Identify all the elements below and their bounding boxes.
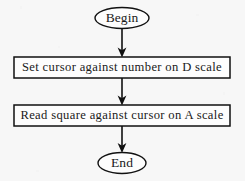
node-begin[interactable]: Begin: [95, 8, 149, 29]
node-read-square[interactable]: Read square against cursor on A scale: [14, 105, 230, 126]
end-label: End: [111, 155, 133, 170]
flowchart-svg: Begin Set cursor against number on D sca…: [0, 0, 245, 181]
set-cursor-label: Set cursor against number on D scale: [22, 60, 222, 74]
node-end[interactable]: End: [98, 153, 146, 174]
node-set-cursor[interactable]: Set cursor against number on D scale: [14, 57, 230, 78]
read-square-label: Read square against cursor on A scale: [20, 108, 223, 122]
begin-label: Begin: [106, 10, 139, 25]
flowchart-canvas: Begin Set cursor against number on D sca…: [0, 0, 245, 181]
